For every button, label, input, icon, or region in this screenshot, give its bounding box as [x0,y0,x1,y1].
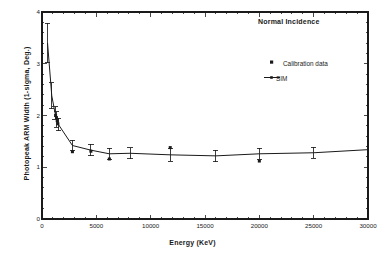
x-tick-label: 10000 [131,222,171,229]
plot-canvas [0,0,385,257]
calibration-data-marker [169,146,172,149]
calibration-data-marker [56,119,59,122]
calibration-data-marker [89,150,92,153]
x-tick-label: 15000 [185,222,225,229]
y-tick-label: 4 [24,8,40,15]
calibration-data-marker [258,160,261,163]
legend-marker-line-node [270,76,273,79]
x-tick-label: 30000 [348,222,385,229]
x-tick-label: 0 [22,222,62,229]
x-tick-label: 5000 [76,222,116,229]
x-tick-label: 20000 [239,222,279,229]
calibration-data-marker [108,157,111,160]
chart-figure: Photopeak ARM Width (1-sigma, Deg.) Ener… [0,0,385,257]
legend-marker-square [270,61,273,64]
y-tick-label: 3 [24,60,40,67]
y-tick-label: 1 [24,163,40,170]
calibration-data-marker [56,122,59,125]
y-tick-label: 2 [24,112,40,119]
x-tick-label: 25000 [294,222,334,229]
plot-frame [42,12,368,219]
calibration-data-marker [55,116,58,119]
y-tick-label: 0 [24,215,40,222]
sim-line [48,43,368,156]
calibration-data-marker [71,150,74,153]
